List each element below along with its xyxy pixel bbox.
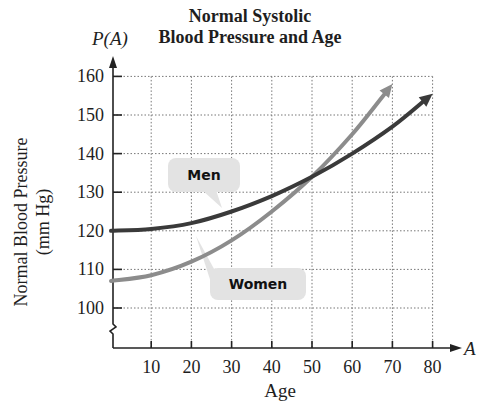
x-tick-label: 80 xyxy=(424,357,442,377)
y-tick-label: 100 xyxy=(77,298,104,318)
x-tick-label: 40 xyxy=(263,357,281,377)
y-tick-label: 160 xyxy=(77,66,104,86)
x-axis-arrow-icon xyxy=(450,344,462,352)
men-callout-text: Men xyxy=(187,167,220,183)
y-tick-label: 110 xyxy=(78,259,104,279)
men-curve xyxy=(111,99,426,231)
x-tick-label: 70 xyxy=(383,357,401,377)
x-tick-label: 50 xyxy=(303,357,321,377)
x-tick-label: 20 xyxy=(182,357,200,377)
series-callouts: MenWomen xyxy=(168,158,306,300)
x-tick-label: 60 xyxy=(343,357,361,377)
y-axis-line xyxy=(110,66,116,348)
x-tick-label: 30 xyxy=(223,357,241,377)
y-tick-label: 140 xyxy=(77,144,104,164)
y-tick-label: 120 xyxy=(77,221,104,241)
women-curve xyxy=(111,90,387,281)
y-axis-arrow-icon xyxy=(109,56,117,68)
women-callout-text: Women xyxy=(229,276,288,292)
chart-plot-area: 1001101201301401501601020304050607080 Me… xyxy=(0,0,480,417)
y-tick-label: 150 xyxy=(77,105,104,125)
y-tick-label: 130 xyxy=(77,182,104,202)
x-tick-label: 10 xyxy=(142,357,160,377)
